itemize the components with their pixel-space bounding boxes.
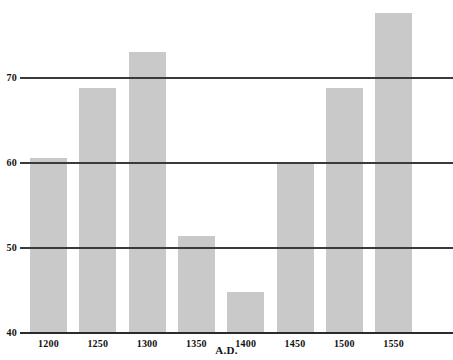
bar bbox=[326, 88, 363, 333]
bar bbox=[79, 88, 116, 333]
y-axis-tick-label: 40 bbox=[1, 327, 17, 338]
bar bbox=[375, 13, 412, 333]
bar-chart: 4050607012001250130013501400145015001550… bbox=[0, 0, 453, 360]
bar bbox=[178, 236, 215, 333]
plot-area: 4050607012001250130013501400145015001550 bbox=[0, 0, 453, 360]
y-axis-tick-label: 70 bbox=[1, 72, 17, 83]
y-axis-tick-label: 60 bbox=[1, 157, 17, 168]
gridline-y-70 bbox=[20, 77, 453, 79]
bar bbox=[129, 52, 166, 333]
gridline-y-60 bbox=[20, 162, 453, 164]
bar bbox=[30, 158, 67, 333]
x-axis-baseline bbox=[20, 332, 453, 334]
gridline-y-50 bbox=[20, 247, 453, 249]
x-axis-title: A.D. bbox=[0, 344, 453, 356]
bar bbox=[227, 292, 264, 333]
y-axis-tick-label: 50 bbox=[1, 242, 17, 253]
